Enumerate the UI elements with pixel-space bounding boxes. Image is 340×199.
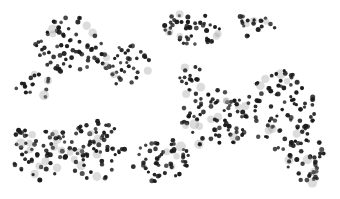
cell <box>94 127 98 131</box>
cell <box>223 109 226 112</box>
cell <box>186 20 190 24</box>
cell <box>53 164 61 172</box>
cell <box>103 176 108 181</box>
cell <box>23 157 27 161</box>
cell <box>46 151 50 155</box>
cell <box>200 136 205 141</box>
cell <box>196 83 205 92</box>
cell <box>171 138 176 143</box>
cell <box>199 97 203 101</box>
cell <box>158 174 162 178</box>
cell <box>49 60 53 64</box>
cell <box>149 141 154 146</box>
cell <box>180 80 184 84</box>
cell <box>113 127 117 131</box>
cell <box>280 108 284 112</box>
cell <box>245 34 250 39</box>
cell <box>238 14 243 19</box>
cell <box>37 177 42 182</box>
cell <box>110 159 114 163</box>
cell <box>198 68 202 72</box>
cell <box>144 67 152 75</box>
cell <box>148 149 153 154</box>
cell <box>23 129 27 133</box>
cell <box>270 74 274 78</box>
cell <box>67 27 71 31</box>
cell <box>25 134 28 137</box>
cell <box>16 138 26 148</box>
cell <box>88 130 94 136</box>
cell <box>246 19 250 23</box>
cell <box>100 162 104 166</box>
cell <box>227 124 232 129</box>
cell <box>283 100 287 104</box>
cell <box>95 131 98 134</box>
cell <box>76 148 83 155</box>
cell <box>188 74 192 78</box>
cell <box>213 25 217 29</box>
cell <box>20 152 24 156</box>
cell <box>172 147 177 152</box>
cell <box>110 168 114 172</box>
cell <box>93 141 96 144</box>
cell <box>282 137 287 142</box>
cell <box>139 146 142 149</box>
cell <box>40 48 44 52</box>
cell <box>294 140 297 143</box>
cell <box>137 153 141 157</box>
cell <box>187 154 190 157</box>
cell <box>86 58 90 62</box>
cell <box>306 132 310 136</box>
cell <box>235 130 239 134</box>
cell <box>19 167 23 171</box>
cell <box>185 149 189 153</box>
cell <box>273 26 277 30</box>
cell <box>89 170 93 174</box>
cell <box>99 42 103 46</box>
cell <box>130 44 135 49</box>
cell <box>310 98 314 102</box>
cell <box>79 129 84 134</box>
cell <box>131 164 136 169</box>
cell <box>191 131 194 134</box>
cell <box>113 57 116 60</box>
cell <box>154 161 158 165</box>
cell <box>294 157 299 162</box>
cell <box>153 173 157 177</box>
cell <box>62 34 66 38</box>
cell <box>68 65 72 69</box>
cell <box>43 130 47 134</box>
cell <box>223 98 229 104</box>
cell <box>205 37 208 40</box>
cell <box>299 142 303 146</box>
cell <box>236 110 240 114</box>
cell <box>293 102 296 105</box>
cell <box>209 104 214 109</box>
cell <box>105 148 109 152</box>
cell <box>78 51 82 55</box>
cell <box>288 153 292 157</box>
cell <box>268 22 273 27</box>
cell <box>129 80 133 84</box>
cell <box>59 21 63 25</box>
cell <box>298 107 303 112</box>
cell <box>78 67 83 72</box>
cell <box>42 52 46 56</box>
cell <box>174 20 179 25</box>
cell <box>14 132 19 137</box>
cell <box>269 104 273 108</box>
cell <box>287 159 291 163</box>
cell <box>20 82 24 86</box>
cell <box>68 39 72 43</box>
cell <box>24 90 28 94</box>
cell <box>124 51 128 55</box>
cell <box>185 164 189 168</box>
cell <box>307 140 310 143</box>
cell <box>182 106 187 111</box>
cell <box>215 88 220 93</box>
cell <box>253 109 257 113</box>
microscopy-image <box>0 0 340 199</box>
cell <box>80 171 85 176</box>
cell <box>153 147 158 152</box>
cell <box>158 155 161 158</box>
